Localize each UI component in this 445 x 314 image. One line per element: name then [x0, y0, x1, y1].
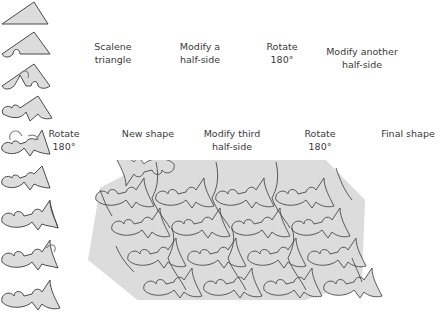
step-label: Modify ahalf-side [180, 40, 220, 66]
tessellation [60, 160, 390, 300]
step-label: Final shape [381, 127, 435, 140]
step-label: Scalenetriangle [94, 40, 131, 66]
step-scalene-triangle: Scalenetriangle [0, 0, 445, 30]
step-label: Modify anotherhalf-side [326, 45, 398, 71]
final-shape [0, 278, 62, 314]
step-label: Modify thirdhalf-side [204, 127, 261, 153]
step-label: Rotate180° [266, 40, 297, 66]
modified-shape-3 [0, 198, 60, 234]
rotate-arrow-icon [10, 131, 22, 140]
scalene-triangle-shape [0, 0, 50, 26]
modified-triangle-shape [0, 30, 52, 58]
step-label: Rotate180° [48, 127, 79, 153]
rotate-shape-3 [0, 238, 60, 274]
rotate-shape [0, 62, 52, 90]
step-label: Rotate180° [304, 127, 335, 153]
step-modify-another-half-side: Modify anotherhalf-side [0, 94, 445, 126]
rotate-shape-2 [0, 126, 52, 160]
step-label: New shape [122, 127, 174, 140]
modified-shape-2 [0, 94, 54, 122]
new-shape [0, 164, 52, 194]
